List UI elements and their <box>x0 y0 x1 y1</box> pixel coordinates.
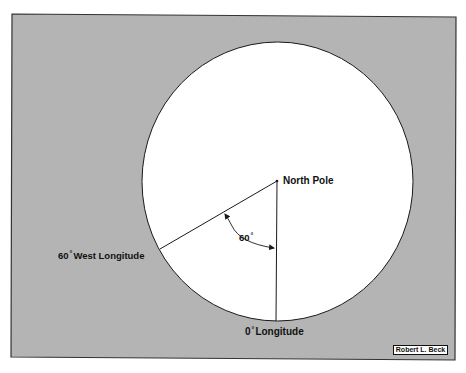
diagram-canvas: North Pole 60°West Longitude 60° 0°Longi… <box>0 0 466 373</box>
angle-degrees: 60 <box>239 232 250 243</box>
credit-box: Robert L. Beck <box>393 345 448 355</box>
prime-meridian-label: 0°Longitude <box>245 327 304 337</box>
degree-symbol: ° <box>70 250 73 257</box>
degree-symbol: ° <box>251 232 254 239</box>
prime-meridian-degrees: 0 <box>245 326 251 337</box>
west-longitude-degrees: 60 <box>58 250 69 261</box>
west-longitude-text: West Longitude <box>73 250 144 261</box>
north-pole-label: North Pole <box>283 176 334 186</box>
angle-label: 60° <box>239 233 254 243</box>
credit-text: Robert L. Beck <box>396 346 445 353</box>
north-pole-text: North Pole <box>283 175 334 186</box>
degree-symbol: ° <box>252 326 255 333</box>
prime-meridian-text: Longitude <box>255 326 303 337</box>
north-pole-point <box>276 180 279 183</box>
longitude-diagram-svg <box>0 0 466 373</box>
west-longitude-label: 60°West Longitude <box>58 251 144 261</box>
